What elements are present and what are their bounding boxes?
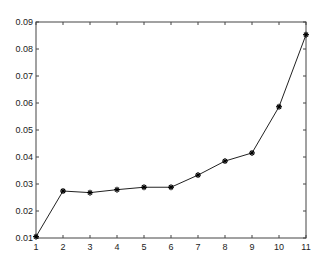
x-tick-label: 7 [195, 242, 200, 252]
x-tick-label: 9 [249, 242, 254, 252]
y-tick-label: 0.06 [15, 98, 33, 108]
x-tick-label: 6 [168, 242, 173, 252]
y-tick-label: 0.03 [15, 179, 33, 189]
line-chart: 1234567891011 0.010.020.030.040.050.060.… [0, 0, 325, 266]
y-tick-label: 0.01 [15, 233, 33, 243]
x-tick-label: 2 [60, 242, 65, 252]
y-tick-label: 0.02 [15, 206, 33, 216]
x-tick-label: 11 [301, 242, 310, 252]
x-tick-label: 8 [222, 242, 227, 252]
x-tick-label: 4 [114, 242, 119, 252]
y-tick-label: 0.08 [15, 44, 33, 54]
x-tick-label: 3 [87, 242, 92, 252]
y-tick-label: 0.09 [15, 17, 33, 27]
x-tick-label: 10 [274, 242, 284, 252]
x-tick-label: 1 [33, 242, 38, 252]
x-tick-label: 5 [141, 242, 146, 252]
y-tick-label: 0.04 [15, 152, 33, 162]
y-tick-label: 0.07 [15, 71, 33, 81]
y-tick-label: 0.05 [15, 125, 33, 135]
